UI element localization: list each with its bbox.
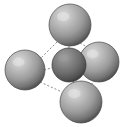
molecule-figure	[0, 0, 122, 127]
atom-left-highlight	[13, 58, 25, 67]
atom-center-body	[52, 48, 86, 82]
atom-bottom	[60, 81, 102, 123]
atom-center	[52, 48, 86, 82]
molecule-diagram	[0, 0, 122, 127]
atom-layer	[5, 4, 119, 123]
atom-bottom-body	[60, 81, 102, 123]
atom-bottom-highlight	[68, 89, 81, 98]
atom-top	[49, 4, 91, 46]
atom-center-highlight	[58, 54, 68, 61]
atom-top-highlight	[57, 12, 70, 21]
atom-top-body	[49, 4, 91, 46]
atom-left	[5, 50, 45, 90]
atom-left-body	[5, 50, 45, 90]
atom-right-highlight	[87, 50, 99, 59]
bond-left-bottom	[40, 82, 62, 92]
